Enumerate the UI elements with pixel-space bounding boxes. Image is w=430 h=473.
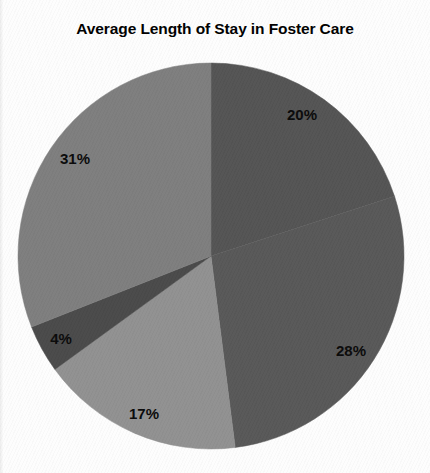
pie-chart [0,0,430,473]
pie-slice-label-4: 4% [50,330,72,347]
pie-slice-label-28: 28% [336,342,366,359]
pie-slice-label-17: 17% [129,405,159,422]
pie-slice-label-31: 31% [60,150,90,167]
pie-slice-label-20: 20% [287,106,317,123]
chart-title: Average Length of Stay in Foster Care [0,20,430,38]
pie-slice-group [18,63,404,449]
pie-chart-svg [0,0,430,473]
page-edge-shadow [0,0,3,473]
